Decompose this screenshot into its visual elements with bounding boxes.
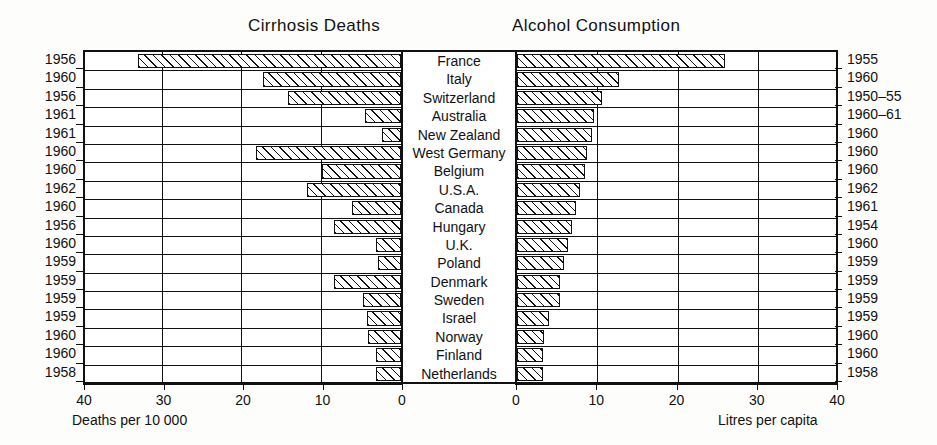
row-tick-left (76, 344, 83, 345)
row-separator-right (517, 181, 836, 182)
xtick-left-40 (84, 384, 85, 390)
year-column-right: 195519601950–551960–61196019601960196219… (843, 50, 933, 384)
year-right-13: 1959 (847, 289, 878, 307)
row-separator-left (85, 144, 401, 145)
row-separator-right (517, 254, 836, 255)
year-right-10: 1960 (847, 234, 878, 252)
bar-alcohol-israel (517, 311, 549, 325)
bar-cirrhosis-canada (352, 201, 401, 215)
row-tick-right (835, 234, 842, 235)
xtick-right-0 (516, 384, 517, 390)
row-tick-left (76, 307, 83, 308)
xtick-right-40 (837, 384, 838, 390)
bar-alcohol-canada (517, 201, 576, 215)
year-right-3: 1960–61 (847, 105, 902, 123)
year-right-6: 1960 (847, 160, 878, 178)
row-separator-left (85, 126, 401, 127)
x-axis-caption-left: Deaths per 10 000 (72, 412, 187, 428)
country-label-u-s-a-: U.S.A. (403, 181, 515, 199)
xtick-label-right-0: 0 (512, 392, 520, 408)
xtick-label-left-40: 40 (76, 392, 92, 408)
xtick-left-30 (164, 384, 165, 390)
year-right-2: 1950–55 (847, 87, 902, 105)
row-separator-right (517, 309, 836, 310)
year-left-4: 1961 (45, 124, 76, 142)
row-tick-right (835, 160, 842, 161)
xtick-label-right-10: 10 (588, 392, 604, 408)
row-separator-left (85, 107, 401, 108)
row-tick-right (835, 271, 842, 272)
bar-alcohol-west-germany (517, 146, 587, 160)
bar-cirrhosis-poland (378, 256, 401, 270)
country-label-israel: Israel (403, 309, 515, 327)
country-label-poland: Poland (403, 254, 515, 272)
bar-alcohol-italy (517, 72, 619, 86)
country-label-netherlands: Netherlands (403, 365, 515, 383)
xtick-right-30 (757, 384, 758, 390)
country-label-hungary: Hungary (403, 218, 515, 236)
bar-cirrhosis-australia (365, 109, 401, 123)
country-label-finland: Finland (403, 346, 515, 364)
row-separator-right (517, 199, 836, 200)
bar-alcohol-norway (517, 330, 544, 344)
bar-cirrhosis-new-zealand (382, 128, 401, 142)
plot-cirrhosis-deaths (83, 50, 403, 384)
bar-alcohol-poland (517, 256, 564, 270)
xtick-label-left-20: 20 (235, 392, 251, 408)
bar-alcohol-netherlands (517, 367, 543, 381)
x-axis-caption-right: Litres per capita (718, 412, 818, 428)
country-label-new-zealand: New Zealand (403, 126, 515, 144)
row-tick-right (835, 381, 842, 382)
row-separator-left (85, 218, 401, 219)
country-label-italy: Italy (403, 70, 515, 88)
row-separator-right (517, 218, 836, 219)
year-left-16: 1960 (45, 344, 76, 362)
chart-title-left: Cirrhosis Deaths (248, 16, 380, 36)
row-separator-right (517, 236, 836, 237)
year-left-17: 1958 (45, 363, 76, 381)
year-left-9: 1956 (45, 216, 76, 234)
year-left-12: 1959 (45, 271, 76, 289)
row-tick-left (76, 105, 83, 106)
bar-cirrhosis-italy (263, 72, 401, 86)
row-separator-right (517, 291, 836, 292)
xtick-label-right-40: 40 (829, 392, 845, 408)
year-left-6: 1960 (45, 160, 76, 178)
row-separator-left (85, 70, 401, 71)
year-right-15: 1960 (847, 326, 878, 344)
year-right-9: 1954 (847, 216, 878, 234)
bar-cirrhosis-sweden (363, 293, 401, 307)
year-right-5: 1960 (847, 142, 878, 160)
year-left-15: 1960 (45, 326, 76, 344)
country-label-canada: Canada (403, 199, 515, 217)
row-tick-right (835, 252, 842, 253)
row-separator-left (85, 309, 401, 310)
bar-cirrhosis-finland (376, 348, 401, 362)
row-separator-right (517, 365, 836, 366)
country-label-belgium: Belgium (403, 162, 515, 180)
row-separator-left (85, 162, 401, 163)
xtick-left-20 (243, 384, 244, 390)
row-separator-left (85, 365, 401, 366)
bar-alcohol-u-s-a- (517, 183, 580, 197)
bar-alcohol-new-zealand (517, 128, 592, 142)
row-tick-right (835, 197, 842, 198)
row-tick-left (76, 179, 83, 180)
bar-cirrhosis-france (138, 54, 401, 68)
bar-cirrhosis-u-k- (376, 238, 401, 252)
year-left-1: 1960 (45, 68, 76, 86)
row-tick-right (835, 326, 842, 327)
row-tick-left (76, 271, 83, 272)
xtick-label-right-30: 30 (749, 392, 765, 408)
country-label-column: FranceItalySwitzerlandAustraliaNew Zeala… (403, 50, 515, 384)
row-tick-right (835, 289, 842, 290)
xtick-left-0 (402, 384, 403, 390)
row-tick-left (76, 160, 83, 161)
row-separator-left (85, 181, 401, 182)
row-separator-right (517, 89, 836, 90)
row-separator-right (517, 144, 836, 145)
year-right-16: 1960 (847, 344, 878, 362)
row-tick-right (835, 344, 842, 345)
chart-title-right: Alcohol Consumption (512, 16, 680, 36)
bar-cirrhosis-netherlands (376, 367, 401, 381)
